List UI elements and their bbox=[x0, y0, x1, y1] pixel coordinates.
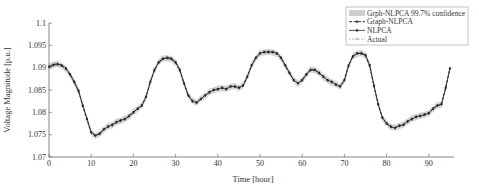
legend-label: Graph-NLPCA bbox=[367, 17, 413, 26]
y-tick-label: 1.08 bbox=[32, 108, 46, 117]
legend-item: Grph-NLPCA 99.7% confidence bbox=[349, 9, 466, 18]
x-tick-label: 70 bbox=[340, 159, 348, 168]
circle-marker-icon bbox=[356, 38, 358, 40]
x-tick-label: 30 bbox=[172, 159, 180, 168]
legend: Grph-NLPCA 99.7% confidenceGraph-NLPCANL… bbox=[346, 7, 468, 45]
y-tick-label: 1.075 bbox=[28, 130, 46, 139]
y-tick-label: 1.09 bbox=[32, 63, 46, 72]
x-tick-label: 60 bbox=[298, 159, 306, 168]
voltage-chart: 01020304050607080901.071.0751.081.0851.0… bbox=[0, 0, 479, 189]
legend-label: Grph-NLPCA 99.7% confidence bbox=[367, 9, 466, 18]
band-swatch-icon bbox=[349, 10, 365, 16]
y-tick-label: 1.095 bbox=[28, 41, 46, 50]
x-tick-label: 20 bbox=[129, 159, 137, 168]
x-axis-label: Time [hour] bbox=[232, 174, 273, 184]
x-tick-label: 80 bbox=[383, 159, 391, 168]
x-tick-label: 0 bbox=[47, 159, 51, 168]
x-tick-label: 40 bbox=[214, 159, 222, 168]
x-tick-label: 90 bbox=[425, 159, 433, 168]
y-tick-label: 1.085 bbox=[28, 86, 46, 95]
legend-label: NLPCA bbox=[367, 26, 392, 35]
square-marker-icon bbox=[356, 29, 358, 31]
y-tick-label: 1.1 bbox=[36, 19, 46, 28]
legend-label: Actual bbox=[367, 35, 387, 44]
x-tick-label: 50 bbox=[256, 159, 264, 168]
y-axis-label: Voltage Magnitude [p.u.] bbox=[2, 47, 12, 132]
x-tick-label: 10 bbox=[87, 159, 95, 168]
y-tick-label: 1.07 bbox=[32, 153, 46, 162]
